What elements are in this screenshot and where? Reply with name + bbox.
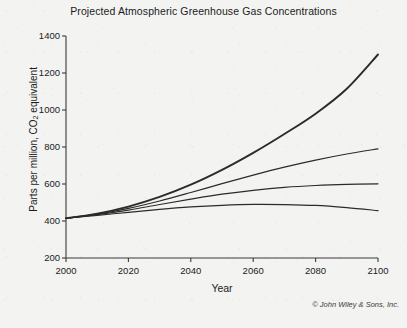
series-line-moderate-emissions-scenario [66, 184, 378, 218]
y-tick-label: 1000 [20, 104, 60, 115]
greenhouse-gas-projection-chart: Projected Atmospheric Greenhouse Gas Con… [0, 0, 407, 328]
y-tick-label: 200 [20, 252, 60, 263]
x-tick-label: 2060 [233, 265, 273, 276]
y-tick-label: 1400 [20, 30, 60, 41]
y-tick-label: 400 [20, 215, 60, 226]
x-tick-label: 2020 [108, 265, 148, 276]
x-tick-label: 2040 [171, 265, 211, 276]
x-tick-label: 2100 [358, 265, 398, 276]
series-line-high-emissions-scenario [66, 149, 378, 218]
plot-area [0, 0, 407, 328]
y-tick-label: 800 [20, 141, 60, 152]
y-tick-label: 600 [20, 178, 60, 189]
x-tick-label: 2000 [46, 265, 86, 276]
y-tick-label: 1200 [20, 67, 60, 78]
x-tick-label: 2080 [296, 265, 336, 276]
copyright-notice: © John Wiley & Sons, Inc. [312, 300, 399, 309]
